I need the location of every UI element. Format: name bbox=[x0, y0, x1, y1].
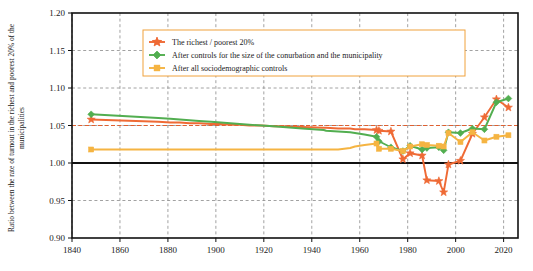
y-tick-label: 0.95 bbox=[49, 196, 65, 206]
data-point-square bbox=[420, 142, 425, 147]
legend: The richest / poorest 20%After controls … bbox=[143, 30, 465, 76]
x-axis-ticks: 1840186018801900192019401960198020002020 bbox=[63, 238, 513, 255]
data-point-square bbox=[441, 144, 446, 149]
data-point-square bbox=[388, 146, 393, 151]
data-point-square bbox=[154, 65, 160, 71]
data-series-group bbox=[87, 95, 512, 196]
x-tick-label: 1920 bbox=[255, 245, 274, 255]
y-tick-label: 1.00 bbox=[49, 158, 65, 168]
legend-label: The richest / poorest 20% bbox=[172, 38, 255, 47]
data-point-square bbox=[494, 134, 499, 139]
line-chart: 0.900.951.001.051.101.151.20 18401860188… bbox=[0, 0, 533, 271]
data-point-diamond bbox=[457, 130, 464, 137]
series-1 bbox=[88, 95, 512, 154]
legend-label: After all sociodemographic controls bbox=[172, 64, 287, 73]
data-point-diamond bbox=[505, 95, 512, 102]
y-tick-label: 0.90 bbox=[49, 233, 65, 243]
x-tick-label: 1940 bbox=[303, 245, 322, 255]
x-tick-label: 1960 bbox=[351, 245, 370, 255]
x-tick-label: 1900 bbox=[207, 245, 226, 255]
series-0 bbox=[87, 95, 512, 196]
data-point-square bbox=[470, 130, 475, 135]
data-point-square bbox=[458, 140, 463, 145]
data-point-square bbox=[446, 131, 451, 136]
legend-label: After controls for the size of the conur… bbox=[172, 51, 383, 60]
x-tick-label: 1860 bbox=[111, 245, 130, 255]
x-tick-label: 1980 bbox=[399, 245, 418, 255]
data-point-square bbox=[400, 149, 405, 154]
data-point-square bbox=[89, 147, 94, 152]
x-tick-label: 1840 bbox=[63, 245, 82, 255]
series-2 bbox=[89, 130, 511, 154]
figure: Ratio between the rate of turnout in the… bbox=[0, 0, 533, 271]
x-tick-label: 1880 bbox=[159, 245, 178, 255]
data-point-square bbox=[374, 141, 379, 146]
data-point-square bbox=[376, 146, 381, 151]
data-point-square bbox=[506, 133, 511, 138]
x-tick-label: 2020 bbox=[495, 245, 514, 255]
data-point-star bbox=[423, 176, 431, 184]
data-point-diamond bbox=[88, 111, 95, 118]
y-axis-ticks: 0.900.951.001.051.101.151.20 bbox=[49, 8, 72, 243]
plot-area-container: 0.900.951.001.051.101.151.20 18401860188… bbox=[0, 0, 533, 271]
y-tick-label: 1.20 bbox=[49, 8, 65, 18]
data-point-square bbox=[408, 144, 413, 149]
x-tick-label: 2000 bbox=[447, 245, 466, 255]
data-point-star bbox=[440, 188, 448, 196]
y-tick-label: 1.05 bbox=[49, 121, 65, 131]
data-point-square bbox=[424, 143, 429, 148]
y-tick-label: 1.10 bbox=[49, 83, 65, 93]
data-point-square bbox=[436, 143, 441, 148]
data-point-diamond bbox=[481, 126, 488, 133]
data-point-square bbox=[482, 138, 487, 143]
y-tick-label: 1.15 bbox=[49, 46, 65, 56]
